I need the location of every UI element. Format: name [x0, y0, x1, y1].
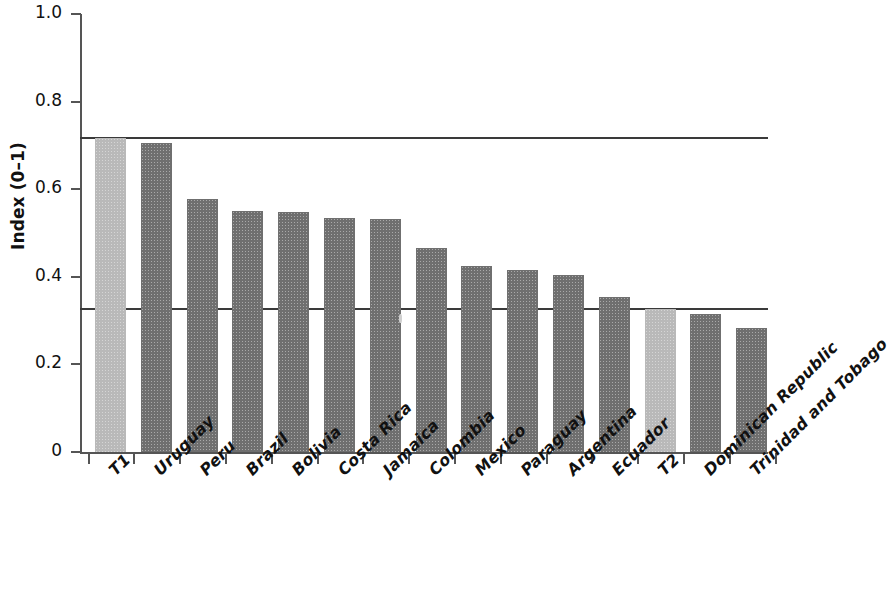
y-tick-mark — [71, 13, 81, 15]
scan-artifact-speck — [399, 314, 402, 323]
x-tick-mark — [683, 453, 685, 464]
bar — [95, 138, 126, 452]
y-axis-line — [80, 14, 82, 453]
y-tick-mark — [71, 363, 81, 365]
y-tick-label: 0.6 — [2, 177, 62, 197]
y-tick-label: 0 — [2, 440, 62, 460]
bar — [690, 314, 721, 452]
bar — [324, 218, 355, 452]
y-tick-mark — [71, 188, 81, 190]
y-tick-label: 0.8 — [2, 90, 62, 110]
bar — [278, 212, 309, 452]
bar — [232, 211, 263, 452]
y-tick-mark — [71, 276, 81, 278]
bar — [141, 143, 172, 452]
x-tick-mark — [88, 453, 90, 464]
x-tick-label: T2 — [654, 450, 683, 479]
x-tick-label: T1 — [105, 450, 134, 479]
threshold-upper-reference-line — [80, 137, 768, 139]
y-tick-label: 0.4 — [2, 265, 62, 285]
y-tick-mark — [71, 101, 81, 103]
y-tick-label: 1.0 — [2, 2, 62, 22]
y-tick-label: 0.2 — [2, 352, 62, 372]
y-tick-mark — [71, 451, 81, 453]
